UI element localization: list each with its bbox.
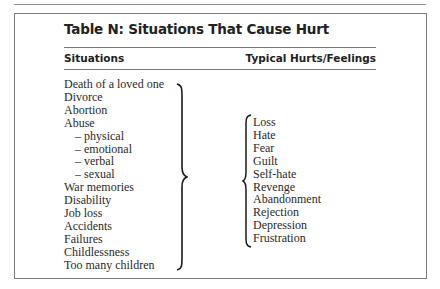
situation-item: Accidents (64, 220, 164, 233)
header-rule (64, 69, 376, 70)
column-header-situations: Situations (64, 52, 124, 64)
situation-item: Too many children (64, 259, 164, 272)
feeling-item: Fear (253, 142, 321, 155)
feeling-item: Hate (253, 129, 321, 142)
column-header-feelings: Typical Hurts/Feelings (246, 52, 376, 64)
feeling-item: Loss (253, 116, 321, 129)
situation-subitem: – physical (64, 130, 164, 143)
situation-item: Death of a loved one (64, 78, 164, 91)
table-title: Table N: Situations That Cause Hurt (64, 21, 329, 37)
situation-item: Abortion (64, 104, 164, 117)
situation-item: Childlessness (64, 246, 164, 259)
page-header-rule (14, 4, 426, 5)
situations-list: Death of a loved one Divorce Abortion Ab… (64, 78, 164, 272)
feeling-item: Self-hate (253, 168, 321, 181)
left-curly-brace-icon (242, 114, 252, 248)
situation-item: Abuse (64, 117, 164, 130)
feeling-item: Guilt (253, 155, 321, 168)
feeling-item: Frustration (253, 232, 321, 245)
situation-item: Divorce (64, 91, 164, 104)
title-rule (64, 47, 376, 48)
situation-item: Failures (64, 233, 164, 246)
right-curly-brace-icon (176, 83, 188, 271)
feelings-list: Loss Hate Fear Guilt Self-hate Revenge A… (253, 116, 321, 245)
